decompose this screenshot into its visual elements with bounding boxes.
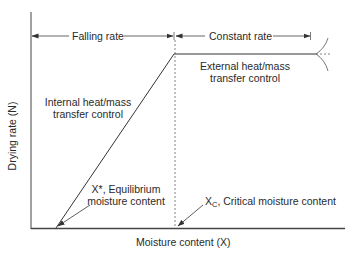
- x-axis-label: Moisture content (X): [136, 236, 231, 248]
- critical-moisture-label: XC, Critical moisture content: [205, 195, 336, 211]
- break-mark-bottom: [316, 54, 328, 71]
- break-mark-top: [316, 38, 328, 54]
- equilibrium-arrow: [58, 205, 90, 226]
- constant-rate-label: Constant rate: [209, 30, 272, 42]
- external-control-label: External heat/mass transfer control: [200, 60, 290, 84]
- y-axis-label-container: Drying rate (N): [4, 88, 20, 184]
- falling-rate-label: Falling rate: [72, 30, 124, 42]
- y-axis-label: Drying rate (N): [6, 102, 18, 171]
- drying-curve-diagram: [0, 0, 355, 257]
- equilibrium-moisture-label: X*, Equilibrium moisture content: [86, 183, 166, 207]
- critical-arrow: [178, 205, 203, 226]
- internal-control-label: Internal heat/mass transfer control: [40, 96, 136, 120]
